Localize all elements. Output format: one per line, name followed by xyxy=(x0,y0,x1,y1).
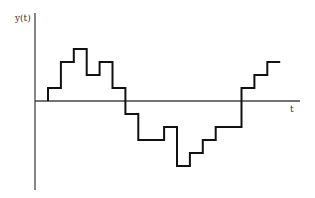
y-axis-label: y(t) xyxy=(15,13,31,23)
waveform-canvas xyxy=(0,0,315,198)
staircase-signal xyxy=(48,49,280,166)
t-axis-label: t xyxy=(290,104,294,114)
step-waveform-figure: y(t) t xyxy=(0,0,315,198)
